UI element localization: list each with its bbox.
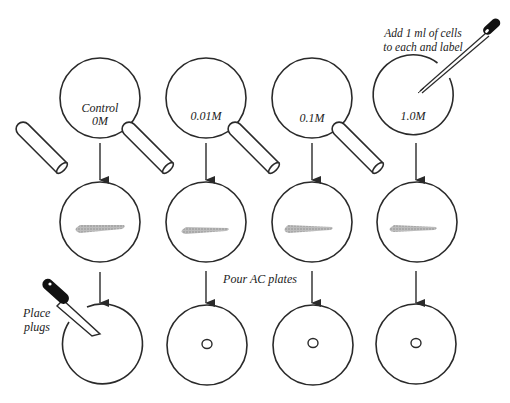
ac-plate-0-1m: [273, 305, 353, 385]
ac-plate-1-0m: [376, 304, 456, 384]
label-control: Control: [82, 101, 120, 115]
row3-plates: [62, 304, 456, 385]
plate-pour-0-01m: [166, 182, 246, 262]
annotation-place: Place: [22, 306, 51, 320]
ac-plate-0-01m: [167, 305, 247, 385]
annotation-add-cells-2: to each and label: [383, 41, 463, 53]
test-tube-icon: [225, 119, 281, 175]
row1-dishes: [60, 55, 453, 138]
annotation-pour-ac-plates: Pour AC plates: [222, 272, 297, 286]
plate-pour-1-0m: [377, 182, 457, 262]
test-tube-icon: [119, 119, 175, 175]
test-tube-icon: [329, 119, 385, 175]
annotation-add-cells-1: Add 1 ml of cells: [383, 27, 462, 40]
plug-hole-icon: [202, 340, 212, 349]
test-tube-icon: [13, 119, 69, 175]
annotation-plugs: plugs: [23, 320, 50, 334]
label-0-1m: 0.1M: [300, 111, 326, 125]
plate-pour-control: [60, 182, 140, 262]
cell-suspension-residue: [76, 225, 437, 234]
row2-plates: [60, 182, 457, 262]
plug-holes: [202, 339, 421, 349]
plug-hole-icon: [308, 339, 318, 348]
test-tubes: [13, 119, 385, 175]
plate-pour-0-1m: [272, 182, 352, 262]
procedure-diagram: Control 0M 0.01M 0.1M 1.0M Add 1 ml of c…: [0, 0, 510, 403]
plug-hole-icon: [411, 339, 421, 348]
label-0-01m: 0.01M: [191, 109, 223, 123]
label-1-0m: 1.0M: [401, 109, 427, 123]
label-0m: 0M: [92, 114, 109, 128]
